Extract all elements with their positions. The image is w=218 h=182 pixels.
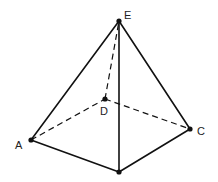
vertex-a: [28, 137, 33, 142]
edge-de: [105, 21, 119, 99]
edge-dc: [105, 99, 190, 129]
vertex-label-d: D: [100, 105, 108, 117]
vertex-label-e: E: [124, 9, 131, 21]
vertex-e: [116, 18, 121, 23]
vertex-b: [116, 169, 121, 174]
pyramid-diagram: E A D C: [0, 0, 218, 182]
edge-bc: [119, 129, 190, 172]
edge-ec: [119, 21, 190, 129]
vertex-label-c: C: [197, 125, 205, 137]
vertex-c: [187, 126, 192, 131]
edge-ea: [31, 21, 119, 140]
edge-ab: [31, 140, 119, 172]
edge-ad: [31, 99, 105, 140]
labels-group: E A D C: [15, 9, 205, 151]
vertex-d: [102, 96, 107, 101]
edges-group: [31, 21, 190, 172]
vertex-label-a: A: [15, 139, 23, 151]
